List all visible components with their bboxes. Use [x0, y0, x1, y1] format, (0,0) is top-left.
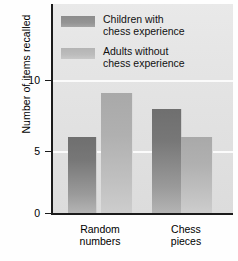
bar-adults-random-numbers [101, 93, 133, 213]
legend-swatch-adults [61, 48, 95, 59]
bar-adults-chess-pieces [181, 137, 213, 213]
legend-label-children: Children with chess experience [103, 14, 185, 37]
legend-swatch-children [61, 16, 95, 27]
legend-label-children-line2: chess experience [103, 25, 185, 37]
bar-children-random-numbers [68, 137, 97, 213]
y-tick-mark-10 [45, 80, 52, 81]
y-axis-line [51, 4, 53, 214]
y-tick-label-0: 0 [16, 207, 40, 219]
x-axis-label-chess-pieces: Chess pieces [141, 223, 231, 247]
legend-item-children: Children with chess experience [61, 14, 185, 37]
gridline-10 [53, 80, 233, 82]
bar-chart-figure: Number of items recalled 10 5 0 Children… [0, 0, 238, 261]
legend-label-children-line1: Children with [103, 13, 164, 25]
legend-label-adults-line1: Adults without [103, 45, 168, 57]
y-tick-mark-0 [45, 213, 52, 214]
x-label-random-line2: numbers [80, 235, 121, 247]
y-tick-label-10: 10 [16, 74, 40, 86]
y-tick-mark-5 [45, 151, 52, 152]
x-axis-label-random-numbers: Random numbers [55, 223, 145, 247]
y-tick-label-5: 5 [16, 145, 40, 157]
chart-legend: Children with chess experience Adults wi… [61, 14, 185, 78]
legend-item-adults: Adults without chess experience [61, 46, 185, 69]
legend-label-adults-line2: chess experience [103, 57, 185, 69]
x-label-random-line1: Random [80, 223, 120, 235]
bar-children-chess-pieces [152, 109, 182, 213]
legend-label-adults: Adults without chess experience [103, 46, 185, 69]
x-label-chess-line1: Chess [171, 223, 201, 235]
x-axis-line [51, 213, 233, 215]
x-label-chess-line2: pieces [171, 235, 201, 247]
